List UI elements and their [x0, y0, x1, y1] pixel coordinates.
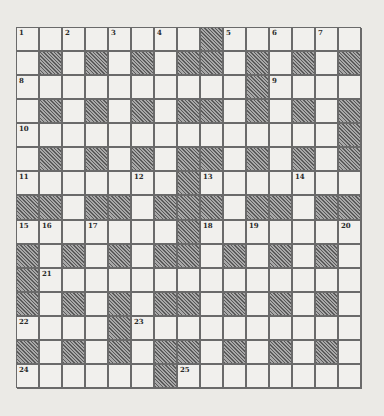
answer-cell[interactable] — [224, 124, 247, 148]
answer-cell[interactable] — [109, 124, 132, 148]
answer-cell[interactable] — [293, 293, 316, 317]
answer-cell[interactable] — [201, 341, 224, 365]
answer-cell[interactable] — [63, 172, 86, 196]
answer-cell[interactable]: 13 — [201, 172, 224, 196]
answer-cell[interactable]: 2 — [63, 28, 86, 52]
answer-cell[interactable] — [86, 124, 109, 148]
answer-cell[interactable]: 23 — [132, 317, 155, 341]
answer-cell[interactable] — [155, 148, 178, 172]
answer-cell[interactable] — [270, 221, 293, 245]
answer-cell[interactable] — [293, 365, 316, 389]
answer-cell[interactable] — [339, 293, 362, 317]
answer-cell[interactable] — [63, 76, 86, 100]
answer-cell[interactable] — [17, 52, 40, 76]
answer-cell[interactable] — [247, 341, 270, 365]
answer-cell[interactable] — [63, 124, 86, 148]
answer-cell[interactable] — [63, 196, 86, 220]
answer-cell[interactable] — [316, 317, 339, 341]
answer-cell[interactable] — [201, 124, 224, 148]
answer-cell[interactable]: 14 — [293, 172, 316, 196]
answer-cell[interactable] — [86, 172, 109, 196]
answer-cell[interactable] — [109, 221, 132, 245]
answer-cell[interactable] — [201, 293, 224, 317]
answer-cell[interactable] — [316, 221, 339, 245]
answer-cell[interactable] — [339, 28, 362, 52]
answer-cell[interactable] — [132, 293, 155, 317]
answer-cell[interactable] — [40, 341, 63, 365]
answer-cell[interactable] — [63, 148, 86, 172]
answer-cell[interactable] — [316, 172, 339, 196]
answer-cell[interactable] — [132, 341, 155, 365]
answer-cell[interactable] — [247, 293, 270, 317]
answer-cell[interactable] — [224, 365, 247, 389]
answer-cell[interactable] — [224, 100, 247, 124]
answer-cell[interactable] — [86, 365, 109, 389]
answer-cell[interactable]: 22 — [17, 317, 40, 341]
answer-cell[interactable] — [316, 76, 339, 100]
answer-cell[interactable]: 3 — [109, 28, 132, 52]
answer-cell[interactable] — [316, 148, 339, 172]
answer-cell[interactable] — [224, 221, 247, 245]
answer-cell[interactable] — [155, 221, 178, 245]
answer-cell[interactable] — [224, 172, 247, 196]
answer-cell[interactable] — [63, 365, 86, 389]
answer-cell[interactable]: 18 — [201, 221, 224, 245]
answer-cell[interactable] — [339, 317, 362, 341]
answer-cell[interactable] — [339, 245, 362, 269]
answer-cell[interactable] — [155, 124, 178, 148]
answer-cell[interactable] — [270, 148, 293, 172]
answer-cell[interactable] — [339, 365, 362, 389]
answer-cell[interactable] — [270, 52, 293, 76]
answer-cell[interactable] — [86, 317, 109, 341]
answer-cell[interactable] — [40, 172, 63, 196]
answer-cell[interactable] — [86, 293, 109, 317]
answer-cell[interactable] — [86, 28, 109, 52]
answer-cell[interactable] — [270, 100, 293, 124]
answer-cell[interactable] — [132, 221, 155, 245]
answer-cell[interactable] — [40, 245, 63, 269]
answer-cell[interactable] — [109, 76, 132, 100]
answer-cell[interactable] — [40, 28, 63, 52]
answer-cell[interactable] — [178, 317, 201, 341]
answer-cell[interactable] — [247, 124, 270, 148]
answer-cell[interactable]: 12 — [132, 172, 155, 196]
answer-cell[interactable] — [339, 269, 362, 293]
answer-cell[interactable] — [40, 317, 63, 341]
answer-cell[interactable] — [155, 172, 178, 196]
answer-cell[interactable]: 21 — [40, 269, 63, 293]
answer-cell[interactable] — [132, 28, 155, 52]
answer-cell[interactable] — [224, 317, 247, 341]
answer-cell[interactable] — [339, 172, 362, 196]
answer-cell[interactable] — [316, 100, 339, 124]
answer-cell[interactable] — [201, 365, 224, 389]
answer-cell[interactable] — [201, 76, 224, 100]
answer-cell[interactable]: 19 — [247, 221, 270, 245]
answer-cell[interactable] — [293, 269, 316, 293]
answer-cell[interactable] — [132, 365, 155, 389]
answer-cell[interactable] — [247, 28, 270, 52]
answer-cell[interactable] — [63, 221, 86, 245]
answer-cell[interactable] — [293, 341, 316, 365]
answer-cell[interactable] — [40, 124, 63, 148]
answer-cell[interactable] — [293, 124, 316, 148]
answer-cell[interactable] — [247, 317, 270, 341]
answer-cell[interactable] — [86, 341, 109, 365]
answer-cell[interactable] — [201, 269, 224, 293]
answer-cell[interactable]: 16 — [40, 221, 63, 245]
answer-cell[interactable] — [109, 269, 132, 293]
answer-cell[interactable] — [316, 365, 339, 389]
answer-cell[interactable] — [316, 269, 339, 293]
answer-cell[interactable] — [293, 317, 316, 341]
answer-cell[interactable] — [178, 124, 201, 148]
answer-cell[interactable] — [40, 365, 63, 389]
answer-cell[interactable]: 17 — [86, 221, 109, 245]
answer-cell[interactable] — [155, 100, 178, 124]
answer-cell[interactable]: 4 — [155, 28, 178, 52]
answer-cell[interactable] — [132, 269, 155, 293]
answer-cell[interactable] — [40, 293, 63, 317]
answer-cell[interactable] — [224, 269, 247, 293]
answer-cell[interactable] — [339, 76, 362, 100]
answer-cell[interactable] — [247, 172, 270, 196]
answer-cell[interactable]: 8 — [17, 76, 40, 100]
answer-cell[interactable] — [270, 269, 293, 293]
